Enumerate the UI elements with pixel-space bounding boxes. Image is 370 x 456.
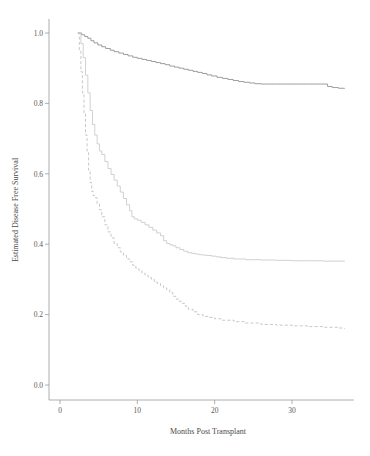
x-tick-label: 10 bbox=[134, 406, 142, 415]
curve-top bbox=[78, 33, 345, 89]
y-tick-label: 0.0 bbox=[34, 381, 44, 390]
x-tick-label: 0 bbox=[58, 406, 62, 415]
curve-mid bbox=[78, 33, 345, 261]
curve-bottom bbox=[78, 33, 345, 329]
y-tick-label: 0.2 bbox=[34, 310, 44, 319]
survival-chart-figure: 0.00.20.40.60.81.0 0102030 Estimated Dis… bbox=[0, 0, 370, 456]
x-axis-title: Months Post Transplant bbox=[170, 427, 247, 436]
y-axis-title: Estimated Disease Free Survival bbox=[11, 157, 20, 262]
survival-curves bbox=[78, 33, 345, 329]
x-tick-label: 20 bbox=[211, 406, 219, 415]
y-tick-label: 0.6 bbox=[34, 170, 44, 179]
y-axis: 0.00.20.40.60.81.0 bbox=[34, 19, 49, 400]
y-tick-label: 1.0 bbox=[34, 29, 44, 38]
x-axis: 0102030 bbox=[49, 400, 354, 415]
y-tick-label: 0.4 bbox=[34, 240, 44, 249]
chart-canvas: 0.00.20.40.60.81.0 0102030 Estimated Dis… bbox=[0, 0, 370, 456]
x-tick-label: 30 bbox=[288, 406, 296, 415]
y-tick-label: 0.8 bbox=[34, 99, 44, 108]
